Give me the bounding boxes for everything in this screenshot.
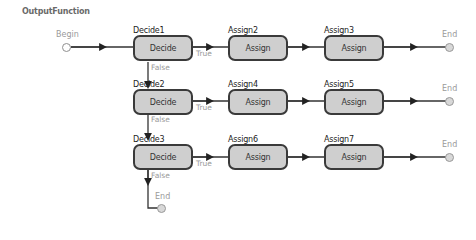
decide2-true-label: True [196, 103, 212, 112]
assign3-node[interactable]: Assign [324, 35, 384, 61]
assign6-name: Assign6 [228, 135, 258, 144]
assign2-node[interactable]: Assign [228, 35, 288, 61]
decide2-name: Decide2 [133, 80, 164, 89]
end3-node[interactable] [445, 153, 454, 162]
assign4-name: Assign4 [228, 80, 258, 89]
end3-label: End [442, 140, 457, 149]
assign4-node[interactable]: Assign [228, 89, 288, 115]
assign3-name: Assign3 [324, 26, 354, 35]
assign5-node[interactable]: Assign [324, 89, 384, 115]
decide3-true-label: True [196, 159, 212, 168]
decide1-true-label: True [196, 49, 212, 58]
end2-label: End [442, 84, 457, 93]
assign7-node[interactable]: Assign [324, 144, 384, 170]
end2-node[interactable] [445, 97, 454, 106]
assign6-node[interactable]: Assign [228, 144, 288, 170]
assign6-label: Assign [246, 153, 271, 162]
assign2-label: Assign [246, 44, 271, 53]
decide1-false-label: False [151, 63, 170, 72]
end4-node[interactable] [157, 204, 166, 213]
assign2-name: Assign2 [228, 26, 258, 35]
begin-node[interactable] [62, 43, 71, 52]
assign5-label: Assign [342, 98, 367, 107]
end1-label: End [442, 30, 457, 39]
assign3-label: Assign [342, 44, 367, 53]
decide1-label: Decide [150, 44, 177, 53]
decide3-name: Decide3 [133, 135, 164, 144]
decide1-name: Decide1 [133, 26, 164, 35]
end1-node[interactable] [445, 43, 454, 52]
assign7-label: Assign [342, 153, 367, 162]
decide1-node[interactable]: Decide [133, 35, 193, 61]
assign4-label: Assign [246, 98, 271, 107]
decide3-label: Decide [150, 153, 177, 162]
decide3-false-label: False [151, 171, 170, 180]
end4-label: End [155, 192, 170, 201]
decide2-false-label: False [151, 115, 170, 124]
begin-label: Begin [56, 30, 79, 39]
decide3-node[interactable]: Decide [133, 144, 193, 170]
assign5-name: Assign5 [324, 80, 354, 89]
decide2-label: Decide [150, 98, 177, 107]
assign7-name: Assign7 [324, 135, 354, 144]
decide2-node[interactable]: Decide [133, 89, 193, 115]
